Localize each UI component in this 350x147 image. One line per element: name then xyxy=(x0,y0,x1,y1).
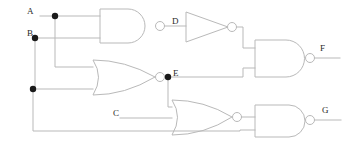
logic-circuit-diagram: A B C D E F G xyxy=(0,0,350,147)
label-input-a: A xyxy=(27,7,34,16)
gate-nand1-body xyxy=(100,9,145,43)
gate-nand2-bubble-icon xyxy=(306,54,315,63)
label-node-e: E xyxy=(173,69,179,78)
label-output-g: G xyxy=(322,106,329,115)
junction-dot-e xyxy=(165,74,171,80)
wire-not1-to-nand2 xyxy=(237,27,256,48)
label-input-b: B xyxy=(27,29,33,38)
label-node-d: D xyxy=(172,17,179,26)
label-input-c: C xyxy=(113,109,119,118)
wire-a-branch-to-nor1 xyxy=(55,16,93,67)
junction-dot-a xyxy=(52,13,58,19)
gate-nand2-body xyxy=(255,40,305,77)
gate-not1-body xyxy=(186,12,228,42)
gate-nor2-body xyxy=(172,100,232,135)
gate-nor2-bubble-icon xyxy=(233,113,242,122)
label-output-f: F xyxy=(320,44,325,53)
gate-nand3-body xyxy=(255,105,305,137)
junction-dot-b-lower xyxy=(30,86,36,92)
gate-nor1-bubble-icon xyxy=(156,73,165,82)
wire-b-feedback-to-nand3 xyxy=(33,89,255,131)
gate-not1-bubble-icon xyxy=(228,23,237,32)
gate-nor1-body xyxy=(93,60,155,95)
gate-nand1-bubble-icon xyxy=(156,22,165,31)
gate-nand3-bubble-icon xyxy=(306,116,315,125)
wire-e-to-nor2 xyxy=(168,77,172,107)
